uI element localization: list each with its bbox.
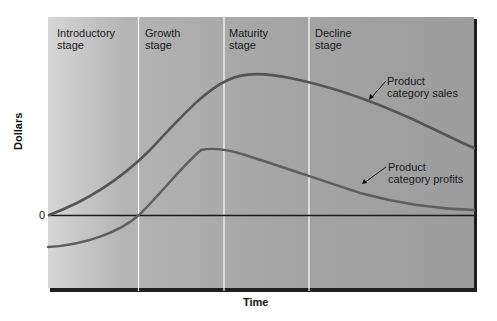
stage-label-line: Decline: [315, 27, 352, 39]
annotation-sales: Product category sales: [387, 75, 458, 99]
stage-label-line: Growth: [145, 27, 180, 39]
stage-label-introductory: Introductory stage: [57, 27, 115, 51]
stage-label-line: stage: [315, 39, 352, 51]
stage-label-line: Introductory: [57, 27, 115, 39]
stage-label-decline: Decline stage: [315, 27, 352, 51]
x-axis-title: Time: [243, 296, 268, 308]
annotation-line: Product: [387, 75, 458, 87]
stage-label-line: Maturity: [229, 27, 268, 39]
stage-label-growth: Growth stage: [145, 27, 180, 51]
stage-label-line: stage: [57, 39, 115, 51]
stage-label-line: stage: [229, 39, 268, 51]
annotation-line: category sales: [387, 87, 458, 99]
stage-label-line: stage: [145, 39, 180, 51]
annotation-line: category profits: [388, 173, 463, 185]
annotation-line: Product: [388, 161, 463, 173]
stage-label-maturity: Maturity stage: [229, 27, 268, 51]
zero-tick-label: 0: [39, 209, 45, 221]
annotation-profits: Product category profits: [388, 161, 463, 185]
chart-panel: [48, 17, 474, 288]
y-axis-title: Dollars: [12, 90, 24, 150]
